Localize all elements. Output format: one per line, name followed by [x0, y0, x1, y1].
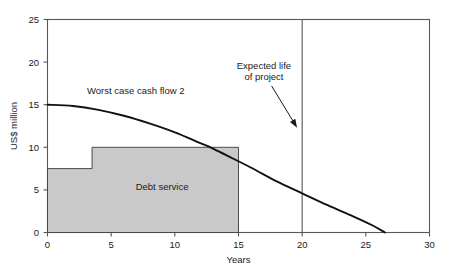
y-axis-ticks	[44, 20, 48, 233]
x-tick-label-20: 20	[297, 239, 308, 250]
series-label-debt-service: Debt service	[136, 181, 189, 192]
annotation-arrow-head	[290, 119, 297, 128]
x-axis-title: Years	[227, 254, 251, 265]
annotation-arrow-line	[272, 86, 294, 122]
y-tick-label-15: 15	[28, 99, 39, 110]
x-tick-label-30: 30	[424, 239, 435, 250]
x-tick-label-15: 15	[233, 239, 244, 250]
x-axis-ticks	[48, 233, 430, 237]
x-tick-label-10: 10	[170, 239, 181, 250]
y-tick-label-5: 5	[34, 184, 39, 195]
x-tick-label-25: 25	[361, 239, 372, 250]
annotation-expected-life-line2: of project	[244, 71, 283, 82]
y-tick-label-10: 10	[28, 142, 39, 153]
y-tick-label-0: 0	[34, 227, 39, 238]
chart-figure: 0 5 10 15 20 25 US$ million 0 5 10 15 20…	[0, 0, 452, 276]
annotation-expected-life-line1: Expected life	[237, 60, 291, 71]
y-axis-title: US$ million	[8, 102, 19, 150]
x-tick-label-0: 0	[45, 239, 50, 250]
series-label-worst-case-cash-flow-2: Worst case cash flow 2	[87, 85, 185, 96]
x-tick-label-5: 5	[109, 239, 114, 250]
chart-canvas: 0 5 10 15 20 25 US$ million 0 5 10 15 20…	[0, 0, 452, 276]
x-axis-tick-labels: 0 5 10 15 20 25 30	[45, 239, 435, 250]
y-tick-label-20: 20	[28, 57, 39, 68]
y-tick-label-25: 25	[28, 14, 39, 25]
y-axis-tick-labels: 0 5 10 15 20 25	[28, 14, 39, 238]
